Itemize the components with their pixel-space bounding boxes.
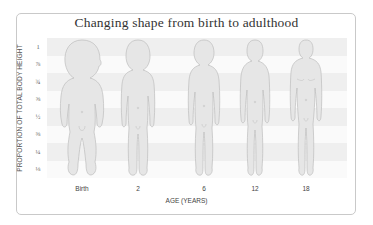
y-tick: ⅛ bbox=[30, 165, 46, 172]
y-tick: ⅝ bbox=[30, 95, 46, 102]
toddler-figure-icon bbox=[118, 38, 158, 180]
adult-18-figure-icon bbox=[285, 38, 327, 180]
y-tick: ⅜ bbox=[30, 130, 46, 137]
diagram-title: Changing shape from birth to adulthood bbox=[0, 15, 373, 31]
y-tick: ¼ bbox=[30, 148, 46, 155]
x-tick: 12 bbox=[240, 185, 270, 192]
x-tick: 18 bbox=[291, 185, 321, 192]
y-tick: ⅞ bbox=[30, 60, 46, 67]
x-tick: 6 bbox=[189, 185, 219, 192]
baby-figure-icon bbox=[58, 38, 106, 180]
x-axis-label: AGE (YEARS) bbox=[0, 197, 373, 204]
child-12-figure-icon bbox=[235, 38, 275, 180]
x-tick: Birth bbox=[67, 185, 97, 192]
y-tick: ¾ bbox=[30, 78, 46, 85]
y-tick: 1 bbox=[30, 43, 46, 50]
child-6-figure-icon bbox=[184, 38, 224, 180]
y-tick: ½ bbox=[30, 113, 46, 120]
y-axis-label: PROPORTION OF TOTAL BODY HEIGHT bbox=[12, 38, 26, 178]
x-tick: 2 bbox=[123, 185, 153, 192]
